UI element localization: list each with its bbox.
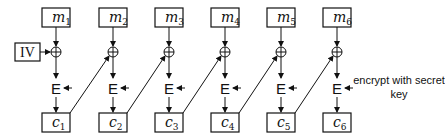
iv-box: IV — [15, 43, 40, 61]
cbc-diagram: IV m1 E c1 m2 E c2 m3 E — [0, 0, 445, 140]
iv-label: IV — [20, 45, 35, 60]
chain-arrow-2 — [127, 56, 165, 113]
chain-arrow-5 — [295, 56, 333, 113]
xor-icon-4 — [220, 47, 230, 57]
encrypt-note-line1: encrypt with secret — [353, 74, 445, 86]
block-6: m6 E c6 — [323, 8, 353, 132]
encrypt-label-6: E — [332, 80, 342, 97]
encrypt-label-4: E — [220, 80, 230, 97]
chain-arrow-4 — [239, 56, 277, 113]
xor-icon-3 — [164, 47, 174, 57]
encrypt-note-line2: key — [390, 88, 408, 100]
encrypt-label-2: E — [108, 80, 118, 97]
xor-icon-5 — [276, 47, 286, 57]
xor-icon-6 — [332, 47, 342, 57]
chain-arrow-1 — [70, 56, 109, 113]
xor-icon-2 — [108, 47, 118, 57]
xor-icon-1 — [51, 47, 61, 57]
encrypt-label-5: E — [276, 80, 286, 97]
chain-arrow-3 — [183, 56, 221, 113]
encrypt-label-1: E — [51, 80, 61, 97]
encrypt-label-3: E — [164, 80, 174, 97]
